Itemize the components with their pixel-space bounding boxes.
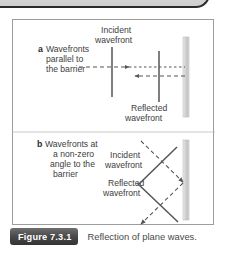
panel-b-desc-line2: a non-zero xyxy=(53,149,94,159)
panel-a-incident-label-line1: Incident xyxy=(101,25,132,35)
figure-number-badge: Figure 7.3.1 xyxy=(10,228,78,245)
panel-a-reflected-label-line1: Reflected xyxy=(131,103,168,113)
panel-b-marker: b xyxy=(37,139,43,149)
panel-b-reflected-label-line2: wavefront xyxy=(102,188,141,198)
page-top-element xyxy=(0,0,210,8)
panel-a-marker: a xyxy=(38,44,43,54)
figure-illustration: a Wavefronts parallel to the barrier Inc… xyxy=(13,20,215,226)
panel-a-desc-line2: parallel to xyxy=(46,54,83,64)
panel-a-desc-line3: the barrier xyxy=(46,64,85,74)
panel-a-barrier xyxy=(183,37,189,117)
panel-b-incident-label-line2: wavefront xyxy=(104,160,143,170)
panel-a-incident-label-line2: wavefront xyxy=(94,35,133,45)
panel-b-barrier xyxy=(183,140,189,220)
figure-caption-row: Figure 7.3.1 Reflection of plane waves. xyxy=(10,228,222,245)
panel-b-desc-line3: angle to the xyxy=(50,159,95,169)
panel-b-incident-wavefront-line xyxy=(139,147,177,184)
panel-b-desc-line4: barrier xyxy=(53,169,78,179)
panel-a-reflected-label-line2: wavefront xyxy=(124,113,163,123)
figure-caption-text: Reflection of plane waves. xyxy=(78,228,196,245)
panel-b-reflected-ray xyxy=(141,183,183,224)
panel-a-desc-line1: Wavefronts xyxy=(46,44,89,54)
panel-b-reflected-wavefront-line xyxy=(137,183,178,222)
figure-frame: a Wavefronts parallel to the barrier Inc… xyxy=(12,19,214,225)
panel-b-incident-label-line1: Incident xyxy=(110,150,141,160)
panel-b-desc-line1: Wavefronts at xyxy=(45,139,98,149)
